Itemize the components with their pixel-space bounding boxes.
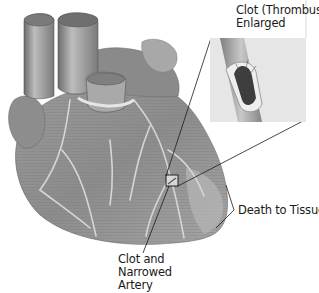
label-line: Artery	[118, 279, 172, 292]
label-clot-narrowed-artery: Clot and Narrowed Artery	[118, 253, 172, 292]
label-line: Enlarged	[236, 17, 319, 30]
label-line: Death to Tissue	[238, 204, 319, 217]
heart-illustration: Clot (Thrombus Enlarged Death to Tissue …	[0, 0, 319, 293]
label-death-to-tissue: Death to Tissue	[238, 204, 319, 217]
label-clot-thrombus-enlarged: Clot (Thrombus Enlarged	[236, 4, 319, 30]
